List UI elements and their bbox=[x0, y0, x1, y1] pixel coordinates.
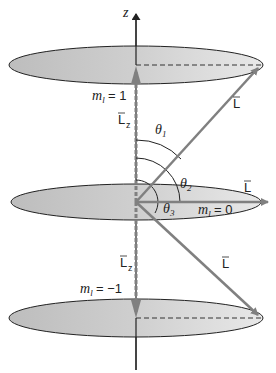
label-m-minus-1: ml = −1 bbox=[80, 281, 122, 298]
label-theta1: θ1 bbox=[155, 122, 166, 139]
svg-text:L: L bbox=[233, 96, 240, 111]
svg-text:L: L bbox=[120, 255, 127, 270]
svg-text:= 0: = 0 bbox=[214, 202, 232, 217]
svg-text:L: L bbox=[118, 112, 125, 127]
label-lz-upper: L z bbox=[118, 112, 131, 130]
svg-text:L: L bbox=[244, 180, 251, 195]
label-lz-lower: L z bbox=[120, 255, 133, 273]
z-axis-label: z bbox=[122, 5, 129, 20]
theta1-arc bbox=[136, 140, 181, 159]
svg-text:θ2: θ2 bbox=[180, 176, 192, 193]
svg-text:ml: ml bbox=[80, 281, 93, 298]
angular-momentum-diagram: z ml = 1 L z L θ1 bbox=[0, 0, 276, 373]
l-vector-m-minus-1 bbox=[136, 202, 258, 315]
svg-text:z: z bbox=[126, 120, 131, 130]
label-m-plus-1: ml = 1 bbox=[92, 88, 126, 105]
svg-text:θ1: θ1 bbox=[155, 122, 166, 139]
svg-text:= −1: = −1 bbox=[96, 281, 122, 296]
svg-text:z: z bbox=[128, 263, 133, 273]
label-l-middle: L bbox=[244, 180, 251, 195]
svg-text:L: L bbox=[222, 256, 229, 271]
label-l-upper: L bbox=[233, 96, 240, 111]
svg-text:ml: ml bbox=[92, 88, 105, 105]
label-theta2: θ2 bbox=[180, 176, 192, 193]
label-l-lower: L bbox=[222, 256, 229, 271]
svg-text:= 1: = 1 bbox=[108, 88, 126, 103]
label-m-0: ml = 0 bbox=[198, 202, 232, 219]
